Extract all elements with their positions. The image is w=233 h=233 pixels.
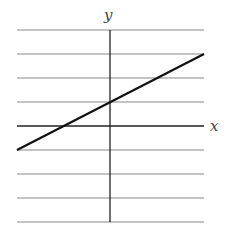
- line-graph: [0, 0, 233, 233]
- y-axis-label: y: [104, 6, 112, 24]
- x-axis-label: x: [210, 117, 218, 135]
